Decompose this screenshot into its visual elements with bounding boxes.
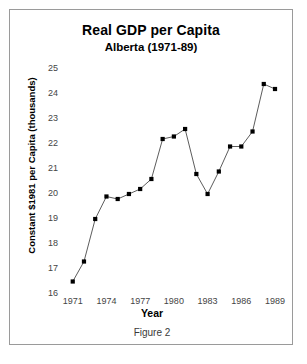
y-axis-title: Constant $1981 per Capita (thousands) (26, 71, 37, 261)
x-tick-label: 1977 (123, 296, 157, 306)
figure-card: Real GDP per Capita Alberta (1971-89) 25… (9, 9, 293, 345)
data-point-marker (161, 137, 165, 141)
x-tick-label: 1974 (89, 296, 123, 306)
data-point-marker (116, 197, 120, 201)
y-tick-label: 25 (36, 63, 58, 73)
y-tick-label: 18 (36, 238, 58, 248)
data-point-marker (194, 172, 198, 176)
x-tick-label: 1980 (157, 296, 191, 306)
data-point-marker (239, 144, 243, 148)
data-point-marker (273, 87, 277, 91)
data-point-marker (138, 187, 142, 191)
x-axis-title: Year (10, 307, 294, 319)
y-tick-label: 23 (36, 113, 58, 123)
y-tick-label: 22 (36, 138, 58, 148)
data-point-marker (127, 192, 131, 196)
data-point-marker (228, 144, 232, 148)
y-tick-label: 19 (36, 213, 58, 223)
data-point-marker (71, 279, 75, 283)
series-line (73, 84, 275, 282)
y-tick-label: 17 (36, 263, 58, 273)
data-point-marker (262, 82, 266, 86)
y-tick-label: 20 (36, 188, 58, 198)
data-point-marker (93, 217, 97, 221)
data-point-marker (104, 194, 108, 198)
x-tick-label: 1983 (191, 296, 225, 306)
y-tick-label: 21 (36, 163, 58, 173)
data-point-marker (183, 127, 187, 131)
y-tick-label: 16 (36, 288, 58, 298)
data-point-marker (149, 177, 153, 181)
data-point-marker (217, 169, 221, 173)
data-point-marker (205, 192, 209, 196)
data-point-marker (250, 129, 254, 133)
series-markers (71, 82, 277, 284)
series-polyline (73, 84, 275, 282)
y-tick-label: 24 (36, 88, 58, 98)
data-point-marker (172, 134, 176, 138)
x-tick-label: 1989 (258, 296, 292, 306)
data-point-marker (82, 259, 86, 263)
plot-area: 2524232221201918171619711974197719801983… (10, 10, 294, 346)
x-tick-label: 1971 (56, 296, 90, 306)
figure-caption: Figure 2 (10, 327, 294, 338)
x-tick-label: 1986 (224, 296, 258, 306)
